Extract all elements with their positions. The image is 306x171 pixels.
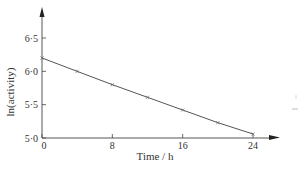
y-axis-label: ln(activity) — [4, 67, 17, 116]
y-tick-label: 6·0 — [25, 66, 38, 77]
x-axis-arrow-icon — [269, 135, 280, 140]
x-tick-label: 0 — [42, 140, 47, 151]
series-line — [42, 58, 253, 134]
x-tick-label: 8 — [110, 140, 115, 151]
x-ticks: 081624 — [42, 134, 259, 151]
x-tick-label: 24 — [248, 140, 258, 151]
x-tick-label: 16 — [178, 140, 188, 151]
y-axis-arrow-icon — [40, 7, 45, 17]
y-tick-label: 6·5 — [25, 33, 38, 44]
x-axis-label: Time / h — [137, 150, 174, 162]
y-ticks: 5·05·56·06·5 — [25, 33, 46, 144]
y-tick-label: 5·5 — [25, 99, 38, 110]
data-series — [40, 56, 254, 135]
chart-canvas: 081624 5·05·56·06·5 Time / h ln(activity… — [0, 0, 306, 171]
y-tick-label: 5·0 — [25, 133, 38, 144]
